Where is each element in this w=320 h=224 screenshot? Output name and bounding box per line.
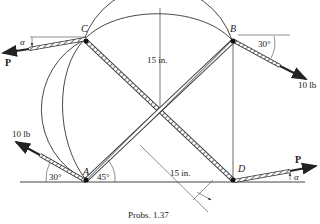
label-B: B	[230, 23, 236, 34]
joint-D	[231, 178, 236, 183]
force-P-right-label: P	[295, 154, 301, 165]
force-arrow-10lb-right	[280, 66, 306, 79]
angle-left-label: 30°	[49, 172, 62, 182]
joint-A	[84, 178, 89, 183]
diagonal-dimension-line	[140, 145, 208, 212]
joint-B	[231, 39, 236, 44]
force-arrow-P-left	[3, 49, 29, 53]
force-10lb-left-label: 10 lb	[12, 129, 31, 139]
truss-rope-diagram: C B A D 15 in. 15 in. α α 30° 30° 45° P …	[0, 0, 320, 224]
label-D: D	[237, 163, 246, 174]
alpha-C-label: α	[20, 37, 25, 47]
force-arrow-10lb-left	[16, 142, 40, 155]
force-arrow-P-right	[290, 166, 316, 171]
angle-A-label: 45°	[97, 172, 110, 182]
angle-B-label: 30°	[258, 39, 271, 49]
dimension-diagonal-label: 15 in.	[170, 168, 191, 178]
joint-C	[84, 39, 89, 44]
figure-caption: Probs. 1.37	[128, 210, 169, 220]
force-P-left-label: P	[5, 57, 11, 68]
label-C: C	[81, 23, 88, 34]
label-A: A	[82, 166, 90, 177]
dimension-vertical-label: 15 in.	[147, 55, 168, 65]
alpha-D-label: α	[294, 172, 299, 182]
force-10lb-right-label: 10 lb	[298, 80, 317, 90]
